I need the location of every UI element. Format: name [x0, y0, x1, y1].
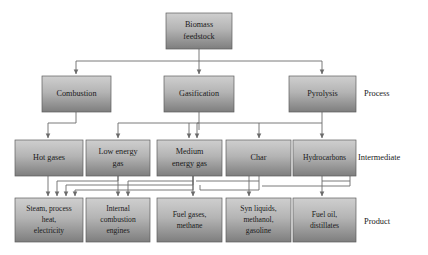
tier-label-product: Product [364, 217, 391, 226]
node-fuel-oil-line2: distillates [310, 221, 339, 230]
node-biomass-feedstock[interactable]: Biomass feedstock [166, 13, 232, 49]
biomass-flowchart: Biomass feedstock Combustion Gasificatio… [0, 0, 428, 255]
node-steam-line3: electricity [34, 226, 65, 235]
node-hydrocarbons-label: Hydrocarbons [303, 153, 346, 162]
connectors-feedstock-to-process [76, 49, 322, 74]
node-steam-process-heat-electricity[interactable]: Steam, process heat, electricity [15, 198, 83, 242]
node-internal-combustion-engines[interactable]: Internal combustion engines [86, 198, 150, 242]
edge-medium-energy-gas-to-steam-alt [75, 176, 193, 196]
node-combustion[interactable]: Combustion [42, 76, 111, 112]
node-fuel-gases-line1: Fuel gases, [173, 210, 207, 219]
node-medium-energy-gas-line2: energy gas [172, 159, 207, 168]
edge-medium-energy-gas-to-ice [128, 181, 193, 196]
flowchart-page: Biomass feedstock Combustion Gasificatio… [0, 0, 428, 255]
node-biomass-feedstock-line2: feedstock [183, 32, 215, 41]
node-biomass-feedstock-line1: Biomass [185, 20, 213, 29]
node-pyrolysis-label: Pyrolysis [307, 89, 337, 98]
node-ice-line1: Internal [106, 204, 130, 213]
node-medium-energy-gas[interactable]: Medium energy gas [157, 140, 222, 176]
edge-medium-energy-gas-to-steam [66, 176, 193, 196]
node-fuel-oil-distillates[interactable]: Fuel oil, distillates [293, 198, 356, 242]
node-fuel-oil-line1: Fuel oil, [312, 210, 337, 219]
node-low-energy-gas-line1: Low energy [98, 147, 138, 156]
node-hot-gases[interactable]: Hot gases [15, 140, 83, 176]
node-syn-liquids[interactable]: Syn liquids, methanol, gasoline [226, 198, 291, 242]
node-steam-line2: heat, [42, 215, 57, 224]
node-fuel-gases-methane[interactable]: Fuel gases, methane [157, 198, 222, 242]
node-low-energy-gas-line2: gas [113, 159, 124, 168]
node-syn-liquids-line2: methanol, [243, 215, 273, 224]
node-gasification[interactable]: Gasification [164, 76, 234, 112]
tier-label-intermediate: Intermediate [358, 153, 401, 162]
edge-combustion-to-hot-gases [48, 112, 76, 138]
connectors-process-to-intermediate [48, 112, 322, 138]
node-gasification-label: Gasification [179, 89, 219, 98]
node-ice-line2: combustion [100, 215, 136, 224]
node-pyrolysis[interactable]: Pyrolysis [289, 76, 356, 112]
edge-char-to-fuel-gases-branch [200, 181, 259, 190]
node-syn-liquids-line1: Syn liquids, [240, 204, 276, 213]
node-medium-energy-gas-line1: Medium [176, 147, 204, 156]
tier-label-process: Process [364, 89, 390, 98]
node-syn-liquids-line3: gasoline [246, 226, 272, 235]
edge-char-riser [196, 176, 259, 181]
connectors-intermediate-to-product [48, 176, 350, 196]
node-char-label: Char [251, 153, 267, 162]
node-combustion-label: Combustion [56, 89, 96, 98]
edge-hydrocarbons-riser [322, 176, 350, 181]
node-char[interactable]: Char [226, 140, 291, 176]
node-fuel-gases-line2: methane [177, 221, 203, 230]
node-low-energy-gas[interactable]: Low energy gas [86, 140, 150, 176]
node-ice-line3: engines [106, 226, 129, 235]
node-hot-gases-label: Hot gases [33, 153, 65, 162]
node-steam-line1: Steam, process [26, 204, 72, 213]
node-hydrocarbons[interactable]: Hydrocarbons [293, 140, 356, 176]
